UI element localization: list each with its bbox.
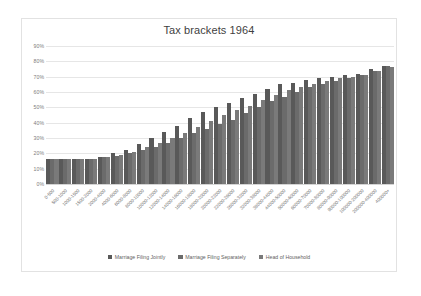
y-axis-tick-label: 50% [10, 104, 44, 110]
bar-group [98, 46, 111, 184]
y-axis-tick-label: 30% [10, 135, 44, 141]
bar-group [239, 46, 252, 184]
bar-group [201, 46, 214, 184]
legend-swatch-icon [259, 255, 264, 260]
y-axis-tick-label: 40% [10, 120, 44, 126]
bar-group [304, 46, 317, 184]
bar-group [381, 46, 394, 184]
bar-group [317, 46, 330, 184]
plot-area: 90%80%70%60%50%40%30%20%10%0% [46, 46, 394, 184]
bar-group [162, 46, 175, 184]
legend-item[interactable]: Head of Household [259, 254, 310, 260]
bar-group [149, 46, 162, 184]
legend-swatch-icon [178, 255, 183, 260]
bar-group [175, 46, 188, 184]
bar-group [214, 46, 227, 184]
y-axis-tick-label: 0% [10, 181, 44, 187]
legend-label: Marriage Filing Separately [185, 254, 246, 260]
bar-series-container [46, 46, 394, 184]
y-axis-tick-label: 10% [10, 166, 44, 172]
bar-group [85, 46, 98, 184]
y-axis-tick-label: 90% [10, 43, 44, 49]
bar-group [110, 46, 123, 184]
y-axis-tick-label: 60% [10, 89, 44, 95]
bar-group [355, 46, 368, 184]
y-axis-tick-label: 70% [10, 74, 44, 80]
chart-card: Tax brackets 1964 90%80%70%60%50%40%30%2… [21, 18, 397, 272]
y-axis-tick-label: 20% [10, 150, 44, 156]
legend-item[interactable]: Marriage Filing Jointly [108, 254, 165, 260]
bar-group [278, 46, 291, 184]
bar-group [368, 46, 381, 184]
y-axis-tick-label: 80% [10, 58, 44, 64]
bar-group [59, 46, 72, 184]
bar-group [136, 46, 149, 184]
bar-group [188, 46, 201, 184]
bar-group [123, 46, 136, 184]
bar-group [291, 46, 304, 184]
bar-group [226, 46, 239, 184]
bar [390, 67, 394, 184]
x-axis-line [46, 184, 394, 185]
legend-label: Head of Household [266, 254, 310, 260]
bar-group [265, 46, 278, 184]
bar-group [46, 46, 59, 184]
bar-group [330, 46, 343, 184]
bar-group [72, 46, 85, 184]
bar-group [252, 46, 265, 184]
chart-title: Tax brackets 1964 [22, 24, 396, 36]
legend-label: Marriage Filing Jointly [115, 254, 165, 260]
legend-item[interactable]: Marriage Filing Separately [178, 254, 246, 260]
x-axis-labels: 0-500500-10001000-15001500-20002000-4000… [46, 186, 394, 246]
chart-legend: Marriage Filing JointlyMarriage Filing S… [22, 254, 396, 260]
x-axis-tick: 400000+ [381, 186, 394, 246]
legend-swatch-icon [108, 255, 113, 260]
y-axis: 90%80%70%60%50%40%30%20%10%0% [10, 46, 44, 184]
bar-group [342, 46, 355, 184]
